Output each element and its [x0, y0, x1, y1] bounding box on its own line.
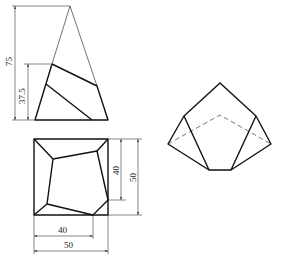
top-view: 40 50 40 50	[34, 139, 142, 254]
dim-label-75: 75	[4, 57, 14, 67]
dim-label-h40: 40	[58, 225, 68, 235]
top-edge-tr	[97, 139, 108, 151]
dim-label-37-5: 37.5	[17, 88, 27, 104]
drawing-svg: 75 37.5 40 50 40 50	[0, 0, 282, 273]
dim-label-h50: 50	[64, 240, 74, 250]
iso-outline	[168, 83, 271, 170]
isometric-view	[168, 83, 271, 170]
front-cut-edge	[46, 84, 92, 120]
iso-hidden-edges	[168, 115, 271, 144]
top-inner-section	[47, 151, 108, 215]
front-outline	[35, 64, 108, 120]
top-edge-bl	[34, 204, 47, 215]
pyramid-phantom-edges	[52, 6, 97, 86]
technical-drawing: 75 37.5 40 50 40 50	[0, 0, 282, 273]
dim-label-v40: 40	[111, 166, 121, 176]
dim-label-v50: 50	[128, 173, 138, 183]
front-view: 75 37.5	[4, 6, 108, 120]
top-edge-tl	[34, 139, 53, 159]
